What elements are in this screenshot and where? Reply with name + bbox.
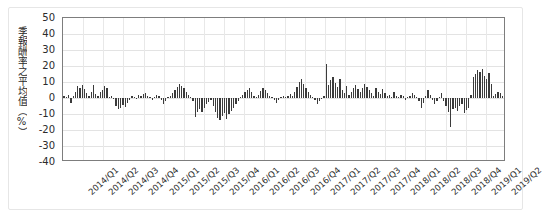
bar [161,98,162,100]
bar [278,98,279,100]
bar [265,90,266,98]
bar [488,73,489,98]
bar [418,98,419,101]
bar [504,95,505,98]
bar [235,98,236,104]
y-tick-label: -30 [39,140,55,151]
bar [479,72,480,98]
bar [201,98,202,112]
bar [398,97,399,98]
bar [326,64,327,98]
bar [177,87,178,98]
bar [457,98,458,111]
bar [122,98,123,105]
bar [373,96,374,98]
bar [378,92,379,98]
bar [500,93,501,98]
bar [129,98,130,100]
bar [342,90,343,98]
bar [303,84,304,98]
bar [163,98,164,104]
bar [287,96,288,98]
bar [353,88,354,98]
bar [213,98,214,106]
bar [445,98,446,106]
bar [305,88,306,98]
bar [63,96,64,98]
bar [210,98,211,100]
bar [82,85,83,98]
bar [271,97,272,98]
bar [247,90,248,98]
bar [274,98,275,100]
y-tick-label: -10 [39,108,55,119]
bar [294,92,295,98]
bar [312,97,313,98]
bar [188,95,189,98]
bar [400,95,401,98]
bar [448,98,449,112]
bar [158,96,159,98]
bar [224,98,225,113]
bar [260,91,261,98]
bar [75,92,76,98]
bar [88,96,89,98]
bar [366,87,367,98]
bar [79,88,80,98]
bar [364,84,365,98]
bar [412,93,413,98]
bar [464,98,465,113]
bar [389,95,390,98]
bar [136,98,137,99]
bar [495,94,496,98]
bar [484,76,485,98]
bar [439,97,440,98]
bar [134,97,135,98]
bar [170,96,171,98]
bar [219,98,220,120]
bar [348,95,349,98]
bar [276,98,277,103]
bar [432,98,433,100]
bar [251,92,252,98]
bar [149,97,150,98]
bar [310,95,311,98]
bar [197,98,198,112]
bar [152,98,153,100]
bar [455,98,456,108]
bar [145,93,146,98]
bar [319,98,320,101]
bar [253,96,254,98]
bar [84,89,85,98]
bar [502,96,503,98]
y-tick-label: 0 [49,92,55,103]
bar [384,93,385,98]
bar [192,98,193,101]
bar [346,86,347,98]
bar [228,98,229,114]
bar [118,98,119,109]
bar [231,98,232,111]
bar [215,98,216,112]
bar [125,98,126,107]
bar [292,96,293,98]
bar [226,98,227,119]
bar [409,96,410,98]
bar [174,90,175,98]
bar [93,85,94,98]
bar [68,95,69,98]
bar [109,97,110,98]
plot-area [62,17,505,161]
bar [403,96,404,98]
bar [387,96,388,98]
bar [427,90,428,98]
y-tick-label: -20 [39,124,55,135]
bar [217,98,218,118]
bar [382,89,383,98]
bar [97,96,98,98]
y-axis-tick-labels: 50403020100-10-20-30-40 [28,17,58,161]
bar [113,98,114,99]
y-tick-label: 40 [42,28,55,39]
bar [258,95,259,98]
